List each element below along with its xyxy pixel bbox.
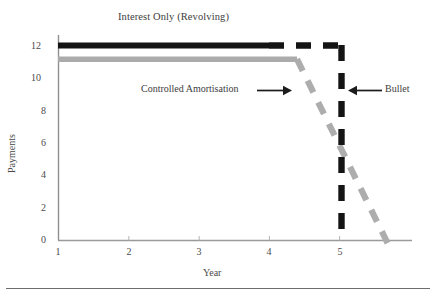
y-tick-label-6: 6 <box>24 137 46 148</box>
y-tick-label-8: 8 <box>24 105 46 116</box>
x-tick-label-5: 5 <box>330 246 350 257</box>
x-tick-label-1: 1 <box>48 246 68 257</box>
x-tick-label-2: 2 <box>119 246 139 257</box>
chart-title: Interest Only (Revolving) <box>118 11 229 22</box>
y-axis-label: Payments <box>6 124 17 184</box>
y-tick-label-10: 10 <box>19 72 41 83</box>
x-axis-label: Year <box>203 267 221 278</box>
annotation-controlled-amortisation: Controlled Amortisation <box>141 83 239 94</box>
y-tick-label-4: 4 <box>24 169 46 180</box>
x-tick-label-4: 4 <box>259 246 279 257</box>
x-tick-label-3: 3 <box>189 246 209 257</box>
annotation-arrow-right-icon <box>257 86 292 95</box>
chart-figure: Interest Only (Revolving) Payments Year … <box>0 0 435 301</box>
annotation-bullet: Bullet <box>385 83 409 94</box>
annotation-arrow-left-icon <box>348 86 382 95</box>
y-tick-label-0: 0 <box>24 234 46 245</box>
y-tick-label-12: 12 <box>19 40 41 51</box>
bottom-divider <box>6 288 430 289</box>
y-tick-label-2: 2 <box>24 202 46 213</box>
